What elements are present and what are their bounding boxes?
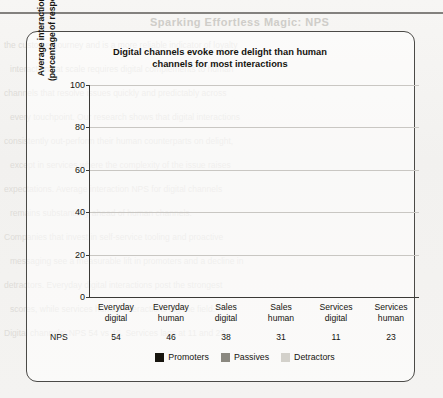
y-tick-mark [86, 255, 90, 256]
legend-swatch-promoters [155, 353, 164, 362]
legend-label: Promoters [168, 352, 209, 362]
y-axis-title: Average interaction NPS®(percentage of r… [36, 0, 57, 108]
chart-title-line: Digital channels evoke more delight than… [50, 46, 390, 58]
gridline [90, 85, 419, 86]
legend-item-detractors: Detractors [281, 352, 335, 362]
legend-item-promoters: Promoters [155, 352, 209, 362]
gridline [90, 170, 419, 171]
page-rule-divider [0, 12, 443, 14]
y-tick-label: 60 [75, 165, 85, 175]
x-axis-category-line: human [359, 313, 423, 324]
x-axis-category-line: Services [359, 302, 423, 313]
legend-item-passives: Passives [221, 352, 269, 362]
chart-legend: PromotersPassivesDetractors [120, 352, 370, 362]
legend-swatch-passives [221, 353, 230, 362]
y-axis-title-line: Average interaction NPS® [36, 0, 47, 108]
legend-label: Passives [234, 352, 269, 362]
y-tick-mark [86, 170, 90, 171]
y-tick-mark [86, 297, 90, 298]
plot-area: 020406080100 [89, 85, 419, 298]
y-tick-mark [86, 85, 90, 86]
page-ghost-header: Sparking Effortless Magic: NPS [150, 16, 329, 28]
y-tick-label: 20 [75, 250, 85, 260]
gridline [90, 255, 419, 256]
y-axis-title-line: (percentage of respondents) [47, 0, 58, 108]
x-axis-category-label: Serviceshuman [359, 302, 423, 324]
gridline [90, 212, 419, 213]
y-tick-mark [86, 212, 90, 213]
nps-value: 23 [359, 332, 423, 342]
nps-row-label: NPS [50, 332, 68, 342]
plot-inner: 020406080100 [90, 85, 419, 297]
y-tick-label: 0 [80, 292, 85, 302]
y-tick-label: 100 [70, 80, 85, 90]
legend-swatch-detractors [281, 353, 290, 362]
y-tick-label: 80 [75, 122, 85, 132]
legend-label: Detractors [294, 352, 335, 362]
gridline [90, 127, 419, 128]
chart-title: Digital channels evoke more delight than… [50, 46, 390, 70]
y-tick-label: 40 [75, 207, 85, 217]
chart-title-line: channels for most interactions [50, 58, 390, 70]
y-tick-mark [86, 127, 90, 128]
